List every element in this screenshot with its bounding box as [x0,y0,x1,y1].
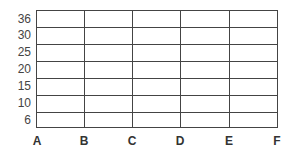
y-label: 36 [18,13,31,25]
y-label: 15 [18,80,31,92]
x-label: F [273,134,280,148]
grid-vline-c [132,11,133,127]
grid-hline [37,95,277,96]
grid-hline [37,78,277,79]
y-label: 10 [18,97,31,109]
grid-hline [37,27,277,28]
grid-hline [37,61,277,62]
grid-vline-b [84,11,85,127]
x-label: C [128,134,137,148]
grid-vline-d [180,11,181,127]
grid-vline-e [229,11,230,127]
x-label: B [80,134,89,148]
y-label: 6 [24,114,31,126]
x-label: A [33,134,42,148]
y-label: 25 [18,46,31,58]
grid-hline [37,44,277,45]
grid [36,10,278,128]
x-label: E [225,134,233,148]
grid-hline [37,112,277,113]
y-label: 20 [18,63,31,75]
y-label: 30 [18,29,31,41]
x-label: D [176,134,185,148]
